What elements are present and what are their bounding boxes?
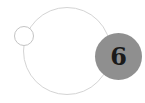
small-outline-circle bbox=[14, 26, 34, 46]
number-badge: 6 bbox=[95, 33, 142, 80]
badge-number: 6 bbox=[110, 45, 127, 69]
